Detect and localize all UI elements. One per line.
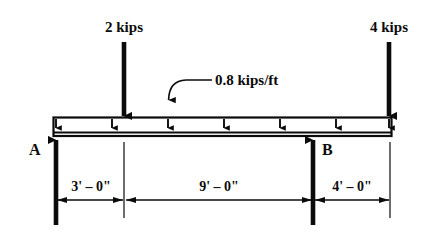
dimension-label-4ft: 4' – 0": [332, 180, 372, 194]
leader-line: [169, 80, 212, 100]
dimension-label-3ft: 3' – 0": [71, 180, 111, 194]
point-load-label-4kips: 4 kips: [370, 20, 408, 35]
dimension-label-9ft: 9' – 0": [199, 180, 239, 194]
beam-diagram: 2 kips 4 kips 0.8 kips/ft A B 3' – 0" 9'…: [0, 0, 433, 239]
point-load-label-2kips: 2 kips: [105, 20, 143, 35]
support-label-B: B: [322, 142, 333, 158]
distributed-load-leader: [169, 80, 212, 100]
diagram-vector-layer: [0, 0, 433, 239]
distributed-load-label: 0.8 kips/ft: [215, 73, 278, 88]
support-label-A: A: [29, 142, 41, 158]
beam-member: [54, 118, 392, 137]
